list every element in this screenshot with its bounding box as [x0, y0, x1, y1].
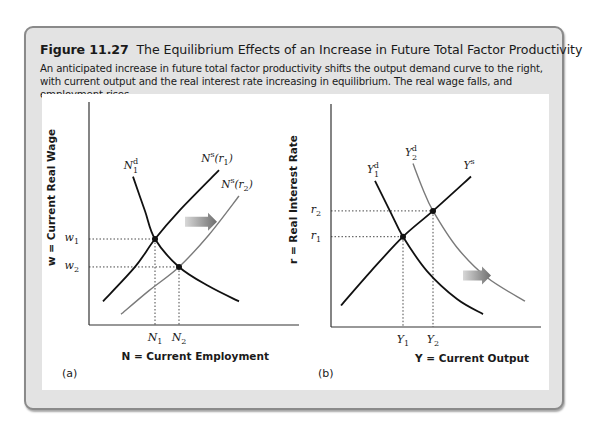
- tick-subscript: 2: [181, 337, 186, 346]
- chart-panel-b: r = Real Interest RateY = Current Output…: [287, 104, 541, 380]
- equilibrium-point: [176, 264, 182, 270]
- equilibrium-point: [430, 208, 436, 214]
- x-tick-label: Y2: [427, 333, 439, 348]
- y-tick-label: r1: [311, 229, 321, 244]
- x-tick-label: Y1: [397, 333, 409, 348]
- x-tick-label: N2: [171, 331, 187, 346]
- panel-label: (b): [318, 367, 334, 380]
- y-tick-label: r2: [311, 203, 321, 218]
- chart-panel: w = Current Real WageN = Current Employm…: [42, 94, 549, 390]
- label-superscript: d: [374, 161, 379, 170]
- tick-subscript: 1: [404, 339, 409, 348]
- equilibrium-point: [400, 234, 406, 240]
- equilibrium-point: [152, 236, 158, 242]
- panel-label: (a): [62, 367, 77, 380]
- y-axis-label: r = Real Interest Rate: [287, 135, 299, 264]
- label-superscript: d: [133, 157, 138, 166]
- label-superscript: s: [470, 157, 474, 166]
- label-superscript: d: [412, 144, 417, 153]
- tick-subscript: 1: [157, 337, 162, 346]
- charts-svg: w = Current Real WageN = Current Employm…: [42, 94, 549, 390]
- tick-subscript: 2: [316, 209, 321, 218]
- shift-arrow-icon: [185, 213, 217, 231]
- curve-label: Ns(r1): [200, 150, 233, 167]
- y-tick-label: w2: [64, 259, 79, 274]
- tick-base: N: [171, 331, 182, 344]
- curve-label: Nd1: [123, 157, 138, 175]
- x-tick-label: N1: [147, 331, 163, 346]
- y-tick-label: w1: [64, 231, 79, 246]
- curve-n-s-r-2-: [121, 196, 239, 314]
- label-close: ): [248, 178, 253, 190]
- label-close: ): [228, 152, 233, 164]
- chart-panel-a: w = Current Real WageN = Current Employm…: [45, 102, 299, 380]
- tick-subscript: 2: [74, 265, 79, 274]
- figure-title: Figure 11.27 The Equilibrium Effects of …: [40, 42, 582, 57]
- label-subscript: 2: [412, 153, 417, 162]
- curve-label: Ys: [463, 157, 474, 171]
- label-subscript: 1: [374, 170, 379, 179]
- curve-label: Yd1: [367, 161, 379, 179]
- label-subscript: 1: [133, 166, 138, 175]
- curve-label: Yd2: [405, 144, 417, 162]
- x-axis-label: Y = Current Output: [414, 352, 529, 364]
- y-axis-label: w = Current Real Wage: [45, 129, 57, 266]
- figure-title-text: The Equilibrium Effects of an Increase i…: [137, 42, 583, 57]
- curve-label: Ns(r2): [220, 176, 253, 193]
- tick-subscript: 1: [316, 235, 321, 244]
- curve-y-1-d: [375, 181, 483, 314]
- figure-number: Figure 11.27: [40, 42, 129, 57]
- tick-subscript: 1: [74, 237, 79, 246]
- tick-base: N: [147, 331, 158, 344]
- x-axis-label: N = Current Employment: [121, 350, 269, 362]
- curve-y-2-d: [413, 164, 525, 302]
- tick-subscript: 2: [434, 339, 439, 348]
